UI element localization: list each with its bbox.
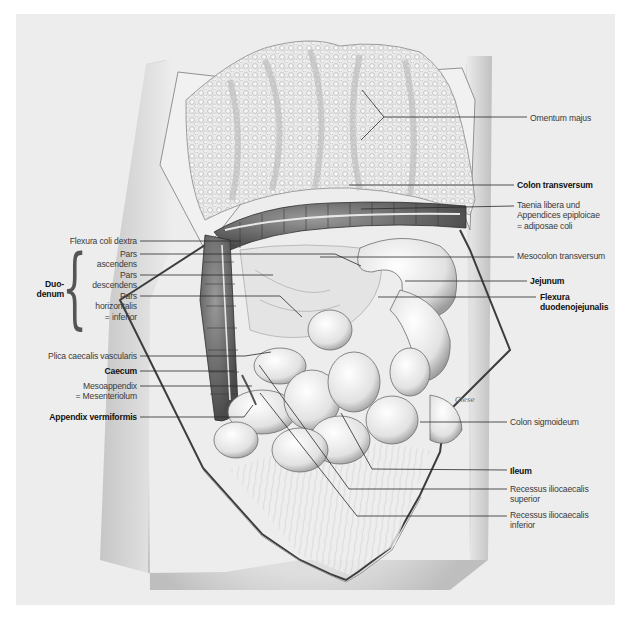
label-recessus-inferior: Recessus iliocaecalis inferior: [510, 510, 589, 531]
label-colon-transversum: Colon transversum: [517, 180, 593, 190]
artist-signature: Giese: [455, 396, 475, 404]
label-appendix-vermiformis: Appendix vermiformis: [18, 412, 137, 422]
label-duodenum: Duo- denum: [34, 279, 64, 300]
label-caecum: Caecum: [18, 366, 137, 376]
label-flexura-duodenojejunalis: Flexura duodenojejunalis: [540, 292, 608, 313]
label-plica-caecalis: Plica caecalis vascularis: [18, 351, 137, 361]
label-jejunum: Jejunum: [530, 276, 564, 286]
label-taenia-libera: Taenia libera und Appendices epiploicae …: [517, 200, 600, 231]
leader-line: [140, 352, 271, 356]
label-ileum: Ileum: [510, 466, 532, 476]
label-mesocolon-transversum: Mesocolon transversum: [517, 251, 605, 261]
curly-brace: {: [62, 244, 87, 332]
omentum-majus-shape: [186, 41, 475, 220]
label-omentum-majus: Omentum majus: [530, 113, 591, 123]
label-recessus-superior: Recessus iliocaecalis superior: [510, 484, 589, 505]
label-mesoappendix: Mesoappendix = Mesenteriolum: [18, 381, 137, 402]
label-colon-sigmoideum: Colon sigmoideum: [510, 417, 579, 427]
